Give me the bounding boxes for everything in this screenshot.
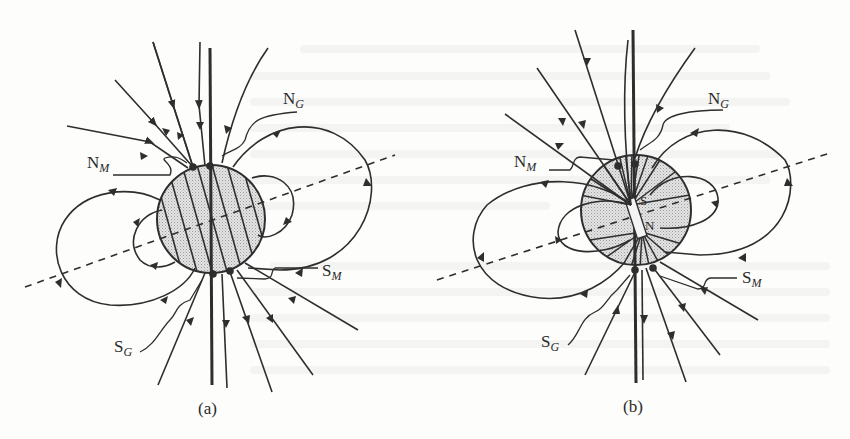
panel-a (25, 42, 395, 392)
leader-sg-a (140, 280, 202, 352)
label-ng-a: NG (283, 89, 304, 111)
caption-b: (b) (623, 397, 643, 416)
label-sm-b: SM (742, 268, 762, 290)
label-nm-b: NM (514, 152, 537, 174)
magnet-s-label: S (640, 193, 647, 208)
magnet-n-label: N (645, 218, 655, 233)
panel-b (437, 30, 830, 383)
label-sg-b: SG (541, 332, 559, 354)
label-ng-b: NG (708, 89, 729, 111)
label-sg-a: SG (114, 337, 132, 359)
magnetic-field-figure: NG NM SM SG (a) (0, 0, 850, 439)
label-nm-a: NM (87, 153, 110, 175)
leader-sg-b (568, 275, 630, 345)
label-sm-a: SM (322, 261, 342, 283)
rotation-axis-a (210, 48, 212, 385)
leader-sm-b (660, 276, 737, 289)
caption-a: (a) (198, 399, 217, 418)
